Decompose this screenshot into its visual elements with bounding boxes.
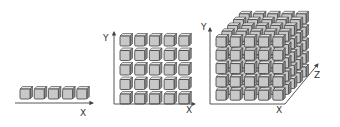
cube-face <box>149 80 159 90</box>
cube-face <box>216 37 226 47</box>
cube-face <box>120 80 130 90</box>
cube-face <box>259 50 269 60</box>
cube-face <box>216 90 226 100</box>
cube-face <box>164 36 174 46</box>
cube-face <box>179 94 189 104</box>
cube-face <box>20 89 30 99</box>
cube-face <box>244 64 254 74</box>
y-axis-label: Y <box>200 22 207 32</box>
cube-row <box>20 87 89 100</box>
cube-face <box>230 50 240 60</box>
cube-face <box>149 36 159 46</box>
cube-face <box>179 80 189 90</box>
cube-face <box>230 90 240 100</box>
cube-face <box>63 89 73 99</box>
cube-face <box>273 50 283 60</box>
cube-face <box>149 94 159 104</box>
cube-face <box>259 77 269 87</box>
cube-face <box>273 37 283 47</box>
cube-face <box>179 65 189 75</box>
cube-face <box>259 90 269 100</box>
cube-face <box>135 80 145 90</box>
cube-face <box>259 64 269 74</box>
cube-face <box>179 51 189 61</box>
cube-face <box>164 94 174 104</box>
x-axis-label: X <box>80 108 86 118</box>
cube-face <box>48 89 58 99</box>
cube-face <box>77 89 87 99</box>
cube-face <box>244 37 254 47</box>
cube-face <box>164 51 174 61</box>
cube-face <box>273 90 283 100</box>
cube-stack <box>216 11 309 100</box>
z-axis-label: Z <box>314 70 320 80</box>
x-axis-label: X <box>186 105 192 115</box>
cube-face <box>273 64 283 74</box>
cube-face <box>34 89 44 99</box>
cube-face <box>179 36 189 46</box>
cube-face <box>230 37 240 47</box>
cube-face <box>135 94 145 104</box>
x-axis-label: X <box>276 105 282 115</box>
cube-face <box>120 94 130 104</box>
cube-face <box>244 50 254 60</box>
cube-face <box>135 51 145 61</box>
panel-2d: Y X <box>102 32 195 115</box>
cube-face <box>149 65 159 75</box>
cube-face <box>164 65 174 75</box>
cube-face <box>216 50 226 60</box>
cube-face <box>259 37 269 47</box>
cube-grid <box>120 34 191 105</box>
cube-face <box>135 36 145 46</box>
cube-face <box>244 77 254 87</box>
cube-face <box>149 51 159 61</box>
cube-face <box>216 64 226 74</box>
cube-face <box>164 80 174 90</box>
cube-face <box>120 65 130 75</box>
cube-face <box>216 77 226 87</box>
cube-face <box>230 77 240 87</box>
panel-1d: X <box>15 87 93 119</box>
cube-face <box>135 65 145 75</box>
y-axis-label: Y <box>102 33 109 43</box>
cube-face <box>244 90 254 100</box>
cube-face <box>230 64 240 74</box>
cube-face <box>120 36 130 46</box>
panel-3d: Y X Z <box>200 11 320 115</box>
cube-face <box>273 77 283 87</box>
cube-face <box>120 51 130 61</box>
dimensions-diagram: X Y X Y X Z <box>0 0 340 127</box>
